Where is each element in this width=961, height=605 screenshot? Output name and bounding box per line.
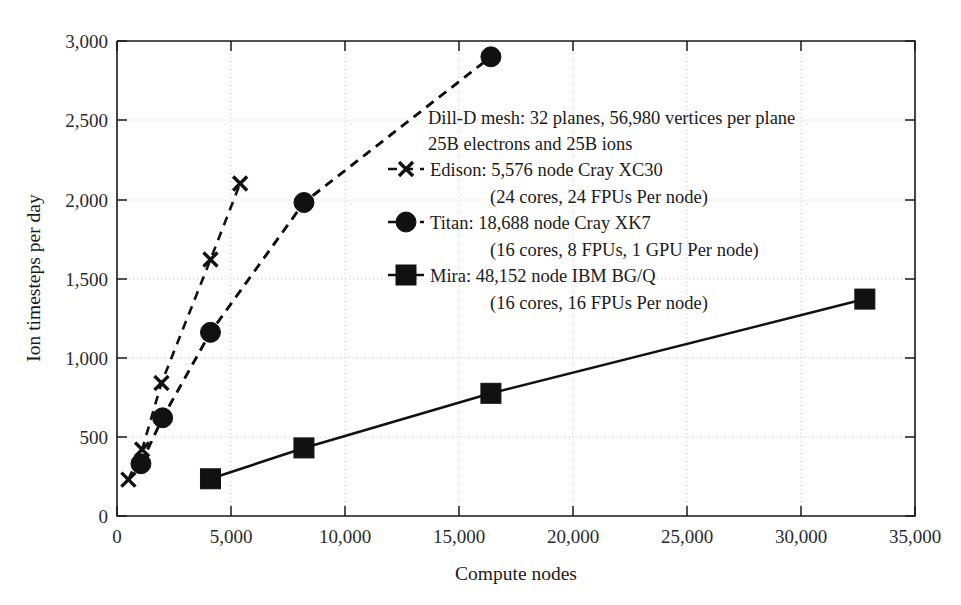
- series-edison: [121, 177, 247, 487]
- y-tick-label: 3,000: [65, 31, 108, 52]
- y-tick-labels: 0 500 1,000 1,500 2,000 2,500 3,000: [65, 31, 108, 527]
- legend-sublabel-edison: (24 cores, 24 FPUs Per node): [490, 187, 708, 208]
- x-tick-label: 15,000: [433, 526, 485, 547]
- y-tick-label: 2,000: [65, 190, 108, 211]
- series-mira: [200, 289, 874, 489]
- x-tick-label: 25,000: [661, 526, 713, 547]
- x-tick-label: 30,000: [775, 526, 827, 547]
- x-tick-labels: 0 5,000 10,000 15,000 20,000 25,000 30,0…: [112, 526, 941, 547]
- legend-header-line-2: 25B electrons and 25B ions: [428, 134, 633, 154]
- x-marker-icon: [388, 162, 424, 176]
- line-chart: 0 500 1,000 1,500 2,000 2,500 3,000 0 5,…: [0, 0, 961, 605]
- legend-label-mira: Mira: 48,152 node IBM BG/Q: [430, 266, 656, 286]
- x-tick-label: 0: [112, 526, 122, 547]
- y-axis-title: Ion timesteps per day: [23, 194, 44, 362]
- legend-sublabel-titan: (16 cores, 8 FPUs, 1 GPU Per node): [490, 240, 759, 261]
- legend-label-edison: Edison: 5,576 node Cray XC30: [430, 160, 663, 180]
- legend-entry-edison[interactable]: Edison: 5,576 node Cray XC30 (24 cores, …: [388, 160, 708, 208]
- edison-markers: [121, 177, 247, 487]
- legend: Dill-D mesh: 32 planes, 56,980 vertices …: [388, 108, 795, 314]
- legend-label-titan: Titan: 18,688 node Cray XK7: [430, 213, 651, 233]
- x-tick-label: 10,000: [319, 526, 371, 547]
- mira-markers: [200, 289, 874, 489]
- chart-container: 0 500 1,000 1,500 2,000 2,500 3,000 0 5,…: [0, 0, 961, 605]
- x-tick-label: 20,000: [547, 526, 599, 547]
- y-tick-label: 1,000: [65, 348, 108, 369]
- x-tick-label: 35,000: [889, 526, 941, 547]
- y-tick-label: 1,500: [65, 269, 108, 290]
- legend-entry-titan[interactable]: Titan: 18,688 node Cray XK7 (16 cores, 8…: [388, 212, 759, 261]
- legend-sublabel-mira: (16 cores, 16 FPUs Per node): [490, 293, 708, 314]
- x-axis-title: Compute nodes: [455, 563, 577, 584]
- square-marker-icon: [388, 265, 424, 285]
- y-tick-label: 2,500: [65, 110, 108, 131]
- edison-line: [128, 184, 240, 480]
- y-tick-label: 500: [80, 427, 109, 448]
- y-tick-label: 0: [99, 506, 109, 527]
- legend-header-line-1: Dill-D mesh: 32 planes, 56,980 vertices …: [428, 108, 795, 128]
- legend-entry-mira[interactable]: Mira: 48,152 node IBM BG/Q (16 cores, 16…: [388, 265, 708, 314]
- circle-marker-icon: [388, 212, 424, 232]
- x-tick-label: 5,000: [210, 526, 253, 547]
